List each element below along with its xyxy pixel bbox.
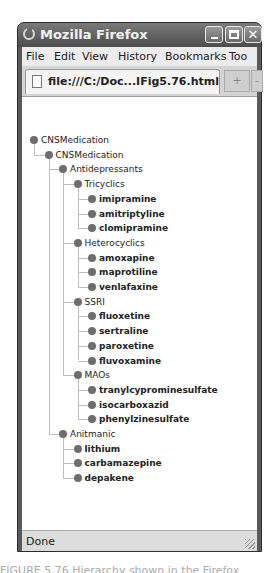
node-bullet-icon [45,151,53,159]
tree-connector [78,272,89,273]
tree-connector [78,199,89,200]
node-bullet-icon [88,357,96,365]
tree-connector [63,463,74,464]
browser-window: Mozilla Firefox ✕ File Edit View History… [17,22,262,552]
tree-node[interactable]: imipramine [88,192,156,206]
node-bullet-icon [88,327,96,335]
menu-view[interactable]: View [82,50,108,63]
resize-grip-icon[interactable] [245,539,255,549]
tree-node-label: Anitmanic [70,429,115,439]
tree-node[interactable]: Anitmanic [59,427,115,441]
menu-bar: File Edit View History Bookmarks Too [22,47,257,66]
tree-node-label: CNSMedication [41,135,109,145]
maximize-button[interactable] [225,26,243,43]
tree-node-label: imipramine [99,194,156,204]
new-tab-button[interactable]: + [224,70,250,92]
tree-node-label: sertraline [99,326,148,336]
tree-connector [63,243,74,244]
node-bullet-icon [30,136,38,144]
minimize-button[interactable] [205,26,223,43]
tree-node[interactable]: phenylzinesulfate [88,412,189,426]
tree-node-label: amitriptyline [99,209,165,219]
tree-node-label: maprotiline [99,267,158,277]
tree-connector [63,449,74,450]
title-bar[interactable]: Mozilla Firefox ✕ [18,23,261,47]
tree-node[interactable]: lithium [74,442,121,456]
tree-node-label: depakene [85,473,134,483]
node-bullet-icon [88,415,96,423]
status-text: Done [26,535,55,548]
tree-node-label: tranylcyprominesulfate [99,385,218,395]
node-bullet-icon [88,254,96,262]
tab-bar: file:///C:/Doc...IFig5.76.html + - [22,66,257,97]
node-bullet-icon [74,239,82,247]
menu-history[interactable]: History [118,50,157,63]
tree-node-label: clomipramine [99,223,168,233]
tree-node[interactable]: SSRI [74,295,105,309]
tree-node[interactable]: Antidepressants [59,162,143,176]
tree-node[interactable]: maprotiline [88,265,158,279]
menu-file[interactable]: File [26,50,44,63]
menu-edit[interactable]: Edit [54,50,75,63]
tree-connector [78,331,89,332]
tree-node[interactable]: depakene [74,471,134,485]
node-bullet-icon [74,459,82,467]
tree-connector [63,302,74,303]
tree-node[interactable]: tranylcyprominesulfate [88,383,218,397]
tree-connector [78,258,89,259]
tree-node-label: SSRI [85,297,105,307]
node-bullet-icon [74,371,82,379]
tree-node[interactable]: paroxetine [88,339,154,353]
tree-connector [49,159,50,434]
tree-node[interactable]: CNSMedication [30,133,109,147]
tree-node[interactable]: sertraline [88,324,148,338]
window-title: Mozilla Firefox [40,27,148,42]
tree-node-label: Antidepressants [70,164,143,174]
tree-node[interactable]: isocarboxazid [88,398,169,412]
tree-connector [78,228,89,229]
node-bullet-icon [88,283,96,291]
tree-node-label: venlafaxine [99,282,158,292]
tree-node-label: CNSMedication [56,150,124,160]
tree-node[interactable]: Tricyclics [74,177,125,191]
tree-connector [78,419,89,420]
tree-node-label: lithium [85,444,121,454]
tree-connector [34,155,45,156]
maximize-icon [229,30,239,39]
tree-connector [49,169,60,170]
tree-connector [78,287,89,288]
menu-tools[interactable]: Too [229,50,247,63]
node-bullet-icon [88,210,96,218]
tree-node[interactable]: clomipramine [88,221,168,235]
status-bar: Done [22,530,257,551]
tree-node[interactable]: fluvoxamine [88,354,161,368]
tree-node[interactable]: MAOs [74,368,111,382]
tree-node[interactable]: amoxapine [88,251,155,265]
close-icon: ✕ [248,27,259,42]
node-bullet-icon [74,298,82,306]
tree-node-label: Heterocyclics [85,238,145,248]
tree-node[interactable]: carbamazepine [74,456,162,470]
minimize-icon [211,37,218,39]
tree-node[interactable]: fluoxetine [88,309,150,323]
tree-node[interactable]: venlafaxine [88,280,158,294]
node-bullet-icon [88,224,96,232]
node-bullet-icon [74,474,82,482]
tab-active[interactable]: file:///C:/Doc...IFig5.76.html [25,69,220,94]
tree-node-label: amoxapine [99,253,155,263]
tree-connector [78,346,89,347]
page-content: CNSMedicationCNSMedicationAntidepressant… [22,97,257,530]
tree-node-label: fluoxetine [99,311,150,321]
tree-connector [78,361,89,362]
tab-list-button[interactable]: - [251,70,263,92]
close-button[interactable]: ✕ [244,26,262,43]
tree-node-label: MAOs [85,370,111,380]
tree-node-label: isocarboxazid [99,400,169,410]
menu-bookmarks[interactable]: Bookmarks [165,50,226,63]
tree-connector [78,316,89,317]
tree-node-label: fluvoxamine [99,356,161,366]
tree-node[interactable]: CNSMedication [45,148,124,162]
tree-node[interactable]: amitriptyline [88,207,165,221]
tree-connector [78,214,89,215]
tree-node[interactable]: Heterocyclics [74,236,145,250]
